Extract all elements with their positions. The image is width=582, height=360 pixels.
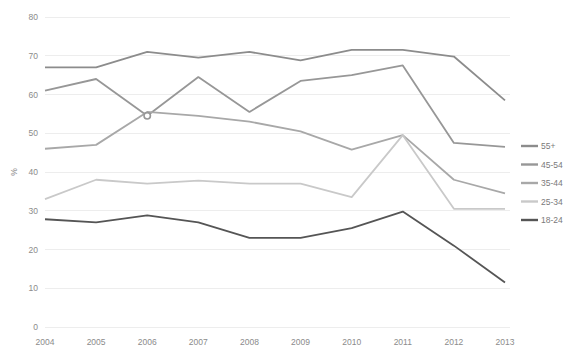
x-tick-label: 2013 xyxy=(496,337,515,347)
legend-label[interactable]: 35-44 xyxy=(541,178,563,188)
y-tick-label: 0 xyxy=(33,322,38,332)
y-tick-label: 70 xyxy=(29,51,39,61)
legend-label[interactable]: 25-34 xyxy=(541,197,563,207)
y-axis-title: % xyxy=(9,168,19,176)
chart-canvas: 01020304050607080 2004200520062007200820… xyxy=(0,0,582,360)
y-tick-label: 80 xyxy=(29,12,39,22)
x-tick-label: 2004 xyxy=(36,337,55,347)
x-tick-label: 2011 xyxy=(394,337,413,347)
y-tick-label: 40 xyxy=(29,167,39,177)
x-tick-label: 2010 xyxy=(342,337,361,347)
y-tick-label: 60 xyxy=(29,90,39,100)
y-tick-label: 20 xyxy=(29,245,39,255)
legend-label[interactable]: 45-54 xyxy=(541,160,563,170)
x-tick-label: 2007 xyxy=(189,337,208,347)
data-point-marker xyxy=(144,113,150,119)
y-tick-label: 10 xyxy=(29,283,39,293)
x-tick-label: 2005 xyxy=(87,337,106,347)
x-tick-label: 2006 xyxy=(138,337,157,347)
x-tick-label: 2008 xyxy=(240,337,259,347)
legend-label[interactable]: 18-24 xyxy=(541,215,563,225)
chart-background xyxy=(0,0,582,360)
legend-label[interactable]: 55+ xyxy=(541,141,555,151)
y-tick-label: 50 xyxy=(29,128,39,138)
x-tick-label: 2009 xyxy=(291,337,310,347)
line-chart: 01020304050607080 2004200520062007200820… xyxy=(0,0,582,360)
data-point-markers xyxy=(144,113,150,119)
x-tick-label: 2012 xyxy=(444,337,463,347)
y-tick-label: 30 xyxy=(29,206,39,216)
y-axis-tick-labels: 01020304050607080 xyxy=(29,12,39,332)
